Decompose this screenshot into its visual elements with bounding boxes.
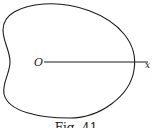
origin-label: O [34,56,43,69]
figure-caption: Fig. 41 [55,121,98,128]
closed-curve [3,4,135,118]
x-axis-label: x [145,60,150,70]
figure-diagram: O x Fig. 41 [0,0,152,128]
